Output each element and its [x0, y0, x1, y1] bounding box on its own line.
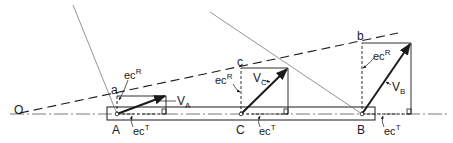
label-A: A: [112, 123, 120, 137]
label-ecT-C: ecT: [259, 123, 276, 137]
right-angle-C: [284, 109, 288, 114]
label-c: c: [237, 55, 243, 69]
right-angle-A: [162, 109, 166, 114]
label-ecR-A: ecR: [124, 67, 142, 81]
rotation-line: [20, 33, 398, 113]
label-C: C: [236, 123, 245, 137]
velocity-vector-A: [117, 96, 165, 114]
label-b: b: [357, 29, 364, 43]
point-A: [115, 112, 119, 116]
leader-ecR-A: [119, 80, 128, 100]
normal-line-c: [210, 12, 362, 114]
right-angle-B: [407, 109, 411, 114]
label-VC: VC: [253, 71, 267, 87]
label-ecT-B: ecT: [384, 123, 401, 137]
leader-VB: [386, 82, 391, 85]
label-B: B: [357, 123, 365, 137]
label-ecT-A: ecT: [133, 123, 150, 137]
point-C: [239, 112, 243, 116]
label-ecR-B: ecR: [373, 48, 391, 62]
label-VA: VA: [177, 94, 191, 110]
label-ecR-C: ecR: [215, 72, 233, 86]
point-B: [360, 112, 364, 116]
label-O: O: [14, 103, 23, 117]
label-VB: VB: [392, 80, 405, 96]
velocity-diagram: O A C B a c b ecR ecR ecR VA VC VB ecT e…: [0, 0, 453, 143]
label-a: a: [111, 83, 118, 97]
leader-ecR-C: [233, 84, 240, 92]
